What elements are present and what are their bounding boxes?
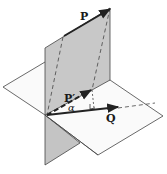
label-p: P <box>80 10 88 23</box>
projection-diagram: P P′ α Q <box>0 0 167 174</box>
label-q: Q <box>106 112 116 125</box>
label-alpha: α <box>68 102 75 113</box>
